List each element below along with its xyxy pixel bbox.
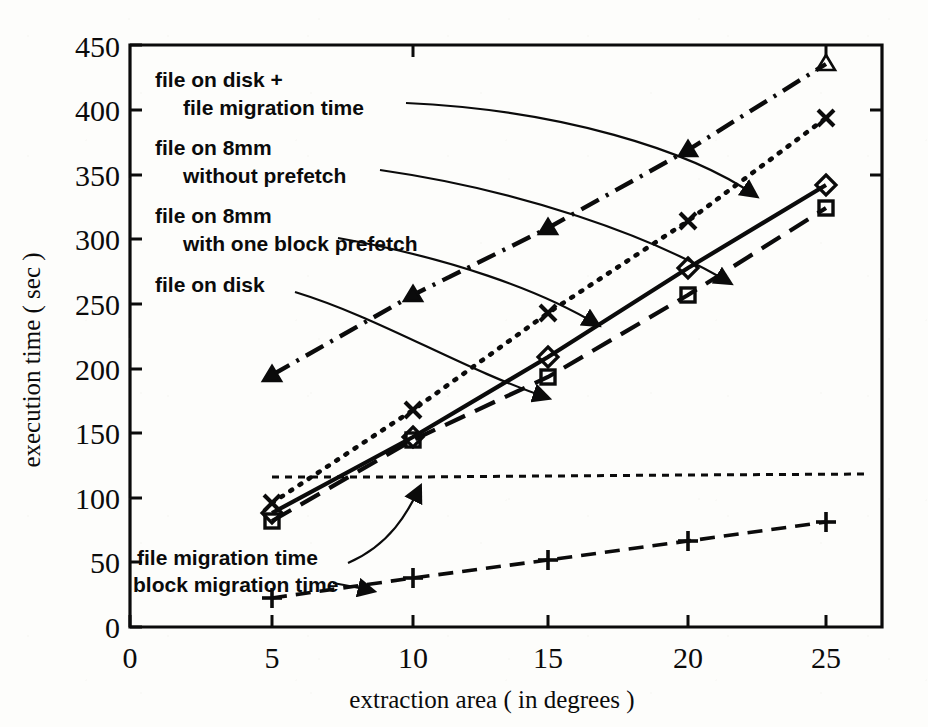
- annot-file-migration-time: file migration time: [137, 546, 318, 569]
- annot-8mm-with-prefetch: file on 8mm with one block prefetch: [155, 204, 418, 255]
- y-tick-label-0: 0: [105, 611, 120, 644]
- annot-line: block migration time: [133, 573, 338, 596]
- marker-plus: [538, 550, 558, 570]
- x-tick-label-20: 20: [673, 641, 703, 674]
- series-markers-x: [264, 110, 834, 511]
- x-tick-label-15: 15: [533, 641, 563, 674]
- series-file-migration-time: [272, 474, 870, 477]
- y-tick-label-400: 400: [75, 94, 120, 127]
- marker-plus: [403, 568, 423, 588]
- x-tick-label-5: 5: [265, 641, 280, 674]
- marker-plus: [816, 512, 836, 532]
- y-tick-label-450: 450: [75, 30, 120, 63]
- annot-line: without prefetch: [182, 164, 346, 187]
- marker-plus: [678, 531, 698, 551]
- x-tick-label-0: 0: [123, 641, 138, 674]
- plot-border: [130, 45, 882, 627]
- execution-time-line-chart: 0 50 100 150 200 250 300 350 400 450 0 5…: [0, 0, 928, 727]
- annot-line: file on 8mm: [155, 204, 272, 227]
- y-tick-label-350: 350: [75, 159, 120, 192]
- series-line-file-migration-time: [272, 474, 870, 477]
- x-axis-ticks: [130, 45, 826, 627]
- y-axis-title: execution time ( sec ): [18, 252, 46, 467]
- x-tick-labels: 0 5 10 15 20 25: [123, 641, 842, 674]
- annot-line: file on 8mm: [155, 136, 272, 159]
- arrow-to-series-block-migration-time: [333, 583, 373, 591]
- annot-block-migration-time: block migration time: [133, 573, 338, 596]
- annot-file-on-disk: file on disk: [155, 273, 265, 296]
- series-markers-plus: [262, 512, 836, 608]
- y-tick-labels: 0 50 100 150 200 250 300 350 400 450: [75, 30, 120, 644]
- x-axis-title: extraction area ( in degrees ): [349, 686, 634, 714]
- arrow-to-series-file-on-disk-plus-migration: [406, 103, 756, 196]
- chart-figure: 0 50 100 150 200 250 300 350 400 450 0 5…: [0, 0, 928, 727]
- x-tick-label-25: 25: [811, 641, 841, 674]
- annot-line: file on disk: [155, 273, 265, 296]
- x-tick-label-10: 10: [398, 641, 428, 674]
- annot-8mm-without-prefetch: file on 8mm without prefetch: [155, 136, 346, 187]
- arrow-to-series-file-migration-time: [348, 487, 420, 563]
- y-tick-label-250: 250: [75, 288, 120, 321]
- arrow-to-series-file-on-disk: [295, 292, 548, 398]
- marker-x: [818, 110, 834, 126]
- y-axis-ticks: [130, 45, 882, 627]
- marker-triangle: [817, 55, 835, 70]
- marker-x: [540, 305, 556, 321]
- annot-line: file on disk +: [155, 68, 283, 91]
- plot-axes-frame: [130, 45, 882, 627]
- series-block-migration-time: [262, 512, 836, 608]
- annot-line: file migration time: [137, 546, 318, 569]
- marker-x: [680, 213, 696, 229]
- annot-line: with one block prefetch: [182, 232, 418, 255]
- y-tick-label-50: 50: [90, 546, 120, 579]
- series-8mm-without-prefetch: [264, 110, 834, 511]
- marker-x: [405, 402, 421, 418]
- y-tick-label-150: 150: [75, 417, 120, 450]
- annot-file-on-disk-plus-migration: file on disk + file migration time: [155, 68, 364, 119]
- y-tick-label-200: 200: [75, 353, 120, 386]
- annot-line: file migration time: [183, 96, 364, 119]
- annotation-arrows: [295, 103, 756, 591]
- y-tick-label-300: 300: [75, 223, 120, 256]
- y-tick-label-100: 100: [75, 482, 120, 515]
- marker-x: [264, 495, 280, 511]
